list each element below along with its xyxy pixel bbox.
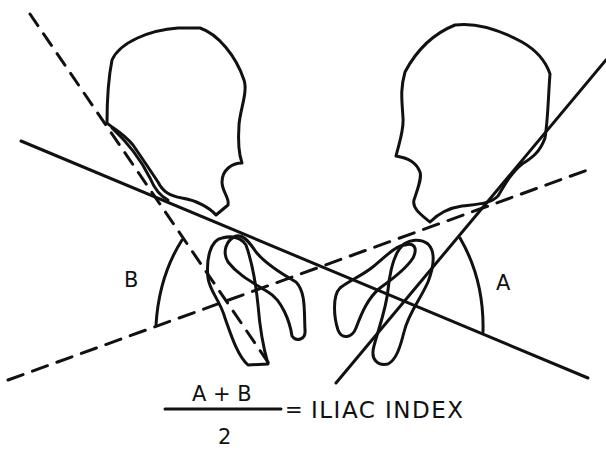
- right-iliac-tangent-line: [336, 60, 606, 383]
- left-dashed-axis-line: [30, 14, 272, 368]
- angle-a-label: A: [496, 271, 511, 295]
- formula-denominator: 2: [218, 425, 231, 449]
- angle-b-label: B: [124, 268, 138, 292]
- formula-numerator: A + B: [192, 382, 252, 406]
- angle-a-arc: [460, 238, 483, 332]
- angle-b-arc: [156, 240, 182, 325]
- formula-equals: =: [285, 398, 303, 422]
- left-iliac-tangent-line: [21, 141, 588, 378]
- formula-result: ILIAC INDEX: [311, 397, 465, 423]
- iliac-index-diagram: B A A + B 2 = ILIAC INDEX: [0, 0, 606, 451]
